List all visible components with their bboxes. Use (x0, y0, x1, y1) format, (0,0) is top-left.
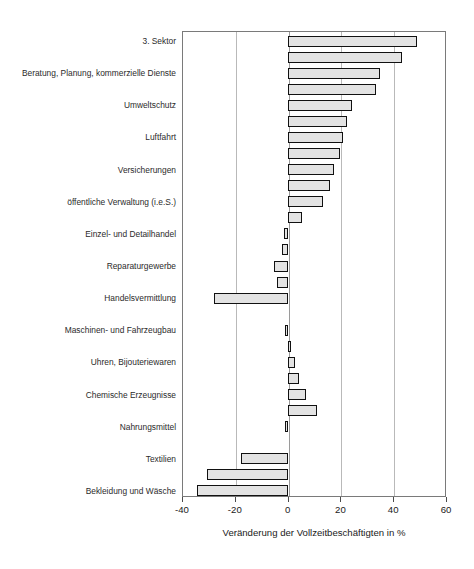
bar (285, 421, 288, 432)
category-label: Handelsvermittlung (0, 293, 176, 303)
category-label: Maschinen- und Fahrzeugbau (0, 325, 176, 335)
x-tick-mark (340, 497, 341, 502)
bar (274, 261, 287, 272)
bar (214, 293, 288, 304)
x-tick-mark (235, 497, 236, 502)
x-tick-label: 20 (335, 504, 346, 515)
bar (288, 196, 324, 207)
bar (288, 212, 303, 223)
bar (207, 469, 288, 480)
bar (288, 164, 334, 175)
bar (284, 228, 288, 239)
figure-caption-faint (0, 2, 474, 14)
category-label: Uhren, Bijouteriewaren (0, 357, 176, 367)
bar (288, 52, 403, 63)
category-axis-labels: 3. SektorBeratung, Planung, kommerzielle… (0, 31, 176, 497)
bar (288, 389, 306, 400)
bar (288, 100, 353, 111)
x-tick-label: 40 (388, 504, 399, 515)
chart-figure: 3. SektorBeratung, Planung, kommerzielle… (0, 0, 474, 569)
category-label: Reparaturgewerbe (0, 261, 176, 271)
bar (277, 277, 288, 288)
bar (288, 132, 343, 143)
bar (288, 36, 417, 47)
x-tick-label: 60 (441, 504, 452, 515)
category-label: Textilien (0, 454, 176, 464)
category-label: Beratung, Planung, kommerzielle Dienste (0, 68, 176, 78)
x-tick-label: -20 (228, 504, 242, 515)
bar (288, 180, 330, 191)
category-label: Einzel- und Detailhandel (0, 229, 176, 239)
x-tick-mark (393, 497, 394, 502)
bar (288, 405, 317, 416)
category-label: Nahrungsmittel (0, 422, 176, 432)
category-label: Umweltschutz (0, 100, 176, 110)
bar (285, 325, 287, 336)
x-tick-label: -40 (175, 504, 189, 515)
x-tick-mark (182, 497, 183, 502)
category-label: 3. Sektor (0, 36, 176, 46)
bar (288, 357, 295, 368)
x-axis: -40-200204060 (182, 497, 446, 521)
bar (288, 116, 347, 127)
x-tick-mark (288, 497, 289, 502)
bar (197, 485, 288, 496)
x-tick-label: 0 (285, 504, 290, 515)
bar (282, 244, 287, 255)
category-label: Bekleidung und Wäsche (0, 486, 176, 496)
category-label: Luftfahrt (0, 132, 176, 142)
category-label: Chemische Erzeugnisse (0, 390, 176, 400)
bar (288, 373, 300, 384)
bar (241, 453, 287, 464)
category-label: Versicherungen (0, 165, 176, 175)
bar (288, 148, 341, 159)
x-axis-title: Veränderung der Vollzeitbeschäftigten in… (182, 527, 446, 538)
bar (288, 341, 291, 352)
bar (288, 84, 376, 95)
x-tick-mark (446, 497, 447, 502)
bar (288, 68, 380, 79)
bars-layer (182, 31, 446, 497)
category-label: öffentliche Verwaltung (i.e.S.) (0, 197, 176, 207)
